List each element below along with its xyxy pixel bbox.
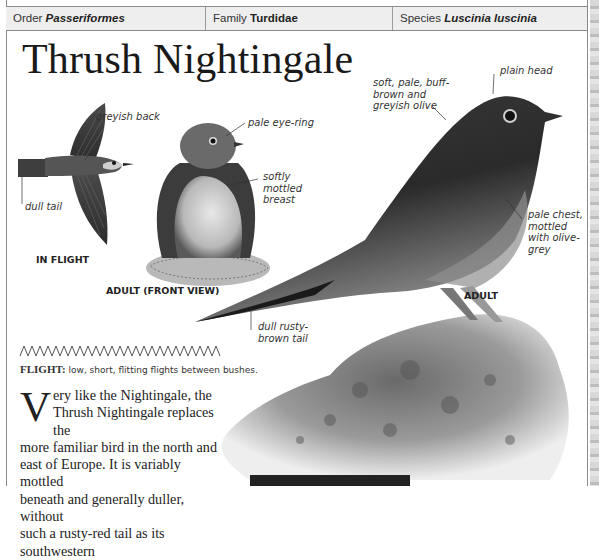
flight-heading: FLIGHT: [20,363,66,375]
label-dull-rusty-brown-tail: dull rusty-brown tail [258,321,318,344]
label-pale-chest: pale chest, mottled with olive-grey [528,209,588,255]
species-description: V ery like the Nightingale, the Thrush N… [20,387,225,560]
flight-text: low, short, flitting flights between bus… [69,365,258,375]
caption-adult: ADULT [464,290,498,301]
label-plain-head: plain head [500,65,553,77]
zigzag-flight-pattern-icon [20,345,220,357]
flight-description: FLIGHT: low, short, flitting flights bet… [20,363,258,375]
label-upperparts: soft, pale, buff-brown and greyish olive [373,77,453,112]
drop-cap: V [20,390,51,423]
